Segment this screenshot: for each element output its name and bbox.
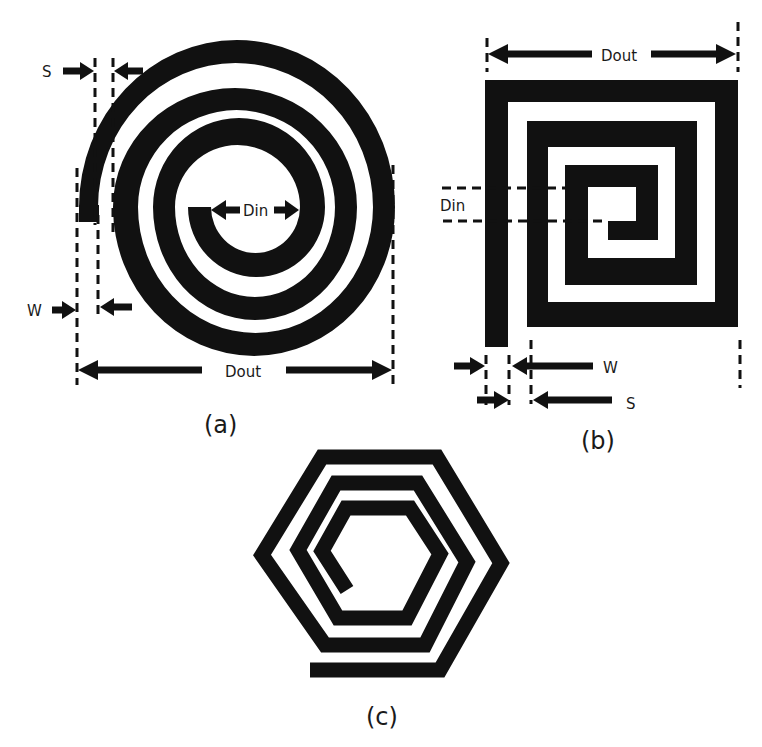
b-outer-left-bar [485, 80, 508, 347]
b-outer-top-bar [485, 80, 738, 102]
arrow-right-icon [372, 360, 392, 380]
arrow-right-icon [494, 391, 509, 409]
a-dout-dimension: Dout [78, 360, 392, 381]
arrow-right-icon [470, 357, 485, 375]
b-din-label: Din [440, 197, 465, 215]
arrow-left-icon [114, 62, 128, 80]
a-dout-label: Dout [225, 363, 261, 381]
b-w-label: W [603, 359, 618, 377]
arrow-right-icon [716, 44, 736, 64]
b-outer-bottom-bar [527, 302, 738, 327]
panel-c-hexagonal-spiral: (c) [262, 457, 501, 731]
b-dout-label: Dout [601, 47, 637, 65]
arrow-right-icon [285, 200, 299, 220]
b-mid-top-bar [527, 121, 697, 147]
a-din-label: Din [243, 202, 268, 220]
a-din-dimension: Din [211, 200, 299, 220]
a-s-dimension: S [42, 62, 143, 81]
arrow-right-icon [80, 62, 94, 80]
caption-b: (b) [581, 427, 615, 455]
a-w-label: W [27, 302, 42, 320]
panel-b-square-spiral: Dout Din W S (b) [440, 22, 740, 455]
arrow-left-icon [211, 200, 226, 220]
b-w-dimension: W [454, 357, 618, 377]
b-s-dimension: S [477, 391, 636, 413]
arrow-left-icon [512, 357, 527, 375]
b-inner-end-bar [608, 221, 658, 240]
panel-a-circular-spiral: S W Din Dout (a) [27, 40, 395, 439]
a-s-label: S [42, 63, 52, 81]
a-w-dimension: W [27, 298, 132, 320]
arrow-left-icon [533, 391, 548, 409]
b-dout-dimension: Dout [488, 44, 736, 65]
b-mid-left-bar [527, 121, 548, 327]
caption-c: (c) [366, 703, 398, 731]
arrow-right-icon [62, 301, 76, 319]
b-s-label: S [626, 395, 636, 413]
arrow-left-icon [100, 298, 114, 316]
b-outer-right-bar [715, 80, 738, 327]
c-hex-spiral-trace [262, 457, 501, 670]
caption-a: (a) [204, 411, 237, 439]
arrow-left-icon [78, 360, 98, 380]
arrow-left-icon [488, 44, 508, 64]
spiral-inductor-figure: S W Din Dout (a) [0, 0, 762, 747]
